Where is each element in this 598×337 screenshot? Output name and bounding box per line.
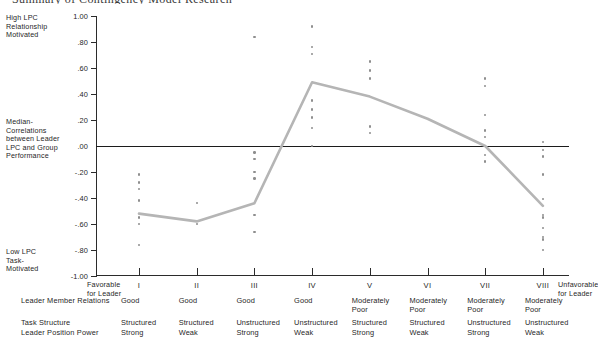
- x-tick-label: V: [350, 281, 390, 290]
- y-axis-high-caption: High LPC Relationship Motivated: [6, 14, 47, 40]
- scatter-point: [542, 216, 544, 218]
- cell-leader-member-relations-octant-III: Good: [236, 296, 254, 305]
- scatter-point: [542, 155, 544, 157]
- scatter-point: [311, 46, 313, 48]
- scatter-point: [484, 160, 486, 162]
- cell-task-structure-octant-V: Structured: [352, 318, 387, 327]
- cell-leader-position-power-octant-IV: Weak: [294, 328, 313, 337]
- cell-leader-position-power-octant-VIII: Weak: [525, 328, 544, 337]
- scatter-point: [484, 114, 486, 116]
- scatter-point: [253, 158, 255, 160]
- x-tick-label: VII: [465, 281, 505, 290]
- row-label-task-structure: Task Structure: [21, 318, 70, 327]
- scatter-point: [484, 77, 486, 79]
- y-tick-label: -.60: [62, 220, 88, 229]
- y-tick-label: .40: [62, 90, 88, 99]
- scatter-point: [138, 188, 140, 190]
- scatter-point: [484, 129, 486, 131]
- scatter-point: [542, 141, 544, 143]
- cell-leader-member-relations-octant-I: Good: [121, 296, 139, 305]
- x-tick-label: VIII: [523, 281, 563, 290]
- scatter-point: [369, 132, 371, 134]
- scatter-point: [138, 181, 140, 183]
- cell-task-structure-octant-I: Structured: [121, 318, 156, 327]
- y-tick-label: .80: [62, 38, 88, 47]
- figure-title: Summary of Contingency Model Research: [12, 0, 432, 4]
- scatter-point: [484, 85, 486, 87]
- cell-task-structure-octant-II: Structured: [179, 318, 214, 327]
- row-label-leader-position-power: Leader Position Power: [21, 328, 99, 337]
- x-tick-mark: [254, 268, 255, 276]
- x-tick-mark: [370, 268, 371, 276]
- scatter-point: [311, 53, 313, 55]
- y-tick-label: -1.00: [62, 272, 88, 281]
- scatter-point: [542, 249, 544, 251]
- y-tick-label: -.20: [62, 168, 88, 177]
- cell-leader-position-power-octant-III: Strong: [236, 328, 258, 337]
- y-tick-mark: [91, 276, 97, 277]
- x-tick-mark: [312, 268, 313, 276]
- y-tick-label: .00: [62, 142, 88, 151]
- cell-task-structure-octant-IV: Unstructured: [294, 318, 338, 327]
- cell-leader-member-relations-octant-V: Moderately Poor: [352, 296, 390, 315]
- scatter-point: [484, 154, 486, 156]
- x-tick-label: IV: [292, 281, 332, 290]
- y-tick-label: -.40: [62, 194, 88, 203]
- scatter-point: [311, 25, 313, 27]
- y-axis-low-caption: Low LPC Task- Motivated: [6, 248, 39, 274]
- x-tick-mark: [543, 268, 544, 276]
- scatter-point: [196, 202, 198, 204]
- scatter-point: [369, 77, 371, 79]
- scatter-point: [196, 223, 198, 225]
- scatter-point: [253, 36, 255, 38]
- cell-leader-member-relations-octant-VI: Moderately Poor: [410, 296, 448, 315]
- zero-reference-line: [96, 146, 569, 147]
- x-tick-label: III: [234, 281, 274, 290]
- y-tick-label: .60: [62, 64, 88, 73]
- scatter-point: [311, 108, 313, 110]
- scatter-point: [253, 214, 255, 216]
- scatter-point: [542, 149, 544, 151]
- cell-leader-position-power-octant-V: Strong: [352, 328, 374, 337]
- scatter-point: [311, 99, 313, 101]
- scatter-point: [138, 199, 140, 201]
- cell-leader-position-power-octant-I: Strong: [121, 328, 143, 337]
- y-axis-mid-caption: Median- Correlations between Leader LPC …: [6, 118, 60, 161]
- scatter-point: [138, 223, 140, 225]
- x-tick-label: VI: [408, 281, 448, 290]
- x-tick-mark: [428, 268, 429, 276]
- scatter-point: [369, 69, 371, 71]
- x-tick-mark: [485, 268, 486, 276]
- scatter-point: [311, 116, 313, 118]
- scatter-point: [542, 227, 544, 229]
- y-tick-label: .20: [62, 116, 88, 125]
- row-label-leader-member-relations: Leader Member Relations: [21, 296, 110, 305]
- cell-leader-member-relations-octant-VII: Moderately Poor: [467, 296, 505, 315]
- scatter-point: [138, 173, 140, 175]
- cell-leader-position-power-octant-II: Weak: [179, 328, 198, 337]
- scatter-point: [542, 238, 544, 240]
- scatter-point: [253, 177, 255, 179]
- x-tick-mark: [139, 268, 140, 276]
- scatter-point: [311, 127, 313, 129]
- cell-leader-position-power-octant-VII: Strong: [467, 328, 489, 337]
- scatter-point: [253, 151, 255, 153]
- scatter-point: [542, 198, 544, 200]
- x-axis-unfavorable-caption: Unfavorable for Leader: [558, 281, 598, 298]
- cell-task-structure-octant-VIII: Unstructured: [525, 318, 569, 327]
- cell-task-structure-octant-VI: Structured: [410, 318, 445, 327]
- scatter-point: [542, 173, 544, 175]
- scatter-point: [138, 216, 140, 218]
- cell-leader-position-power-octant-VI: Weak: [410, 328, 429, 337]
- scatter-point: [138, 244, 140, 246]
- cell-task-structure-octant-III: Unstructured: [236, 318, 280, 327]
- y-tick-label: 1.00: [62, 12, 88, 21]
- scatter-point: [253, 231, 255, 233]
- scatter-point: [484, 136, 486, 138]
- x-axis-line: [96, 275, 569, 276]
- scatter-point: [369, 60, 371, 62]
- y-tick-label: -.80: [62, 246, 88, 255]
- cell-leader-member-relations-octant-II: Good: [179, 296, 197, 305]
- x-tick-label: II: [177, 281, 217, 290]
